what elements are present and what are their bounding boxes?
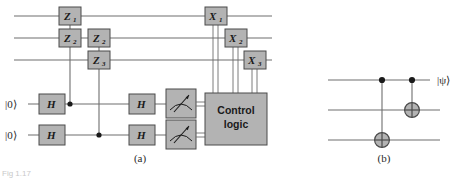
x-gate-3-letter: X bbox=[247, 54, 256, 66]
panel-b-caption: (b) bbox=[378, 152, 391, 165]
cnot-q1-to-q3[interactable] bbox=[375, 77, 390, 148]
z-gate-4-subscript: 3 bbox=[101, 60, 106, 68]
x-gate-3-subscript: 3 bbox=[257, 60, 262, 68]
panel-b: |ψ⟩ (b) bbox=[328, 74, 450, 165]
panel-a: Z 1 Z 2 Z 2 Z 3 X bbox=[5, 7, 272, 165]
classical-wires bbox=[196, 102, 205, 137]
x-gate-2[interactable]: X 2 bbox=[225, 29, 247, 47]
z-gate-2-letter: Z bbox=[63, 32, 71, 44]
bleed-caption-fragment: Fig 1.17 bbox=[2, 169, 31, 178]
x-gate-2-subscript: 2 bbox=[238, 38, 243, 46]
input-ket-2: |0⟩ bbox=[5, 129, 17, 141]
x-gate-1-letter: X bbox=[208, 10, 217, 22]
z-gate-1[interactable]: Z 1 bbox=[59, 7, 81, 25]
cnot-q1-to-q2[interactable] bbox=[405, 77, 420, 118]
cnot-1-control-dot[interactable] bbox=[379, 77, 385, 83]
z-gate-3-letter: Z bbox=[92, 32, 100, 44]
z-gate-1-letter: Z bbox=[63, 10, 71, 22]
quantum-circuit-figure: Z 1 Z 2 Z 2 Z 3 X bbox=[0, 0, 472, 178]
measurement-meter-2[interactable] bbox=[166, 120, 196, 149]
h-gate-q5-left-label: H bbox=[46, 129, 56, 141]
control-logic-block[interactable]: Control logic bbox=[205, 93, 267, 145]
z-gate-2[interactable]: Z 2 bbox=[59, 29, 81, 47]
panel-b-wires bbox=[328, 80, 440, 140]
z-gate-3-subscript: 2 bbox=[101, 38, 106, 46]
z-gate-2-subscript: 2 bbox=[72, 38, 77, 46]
control-dot-ancilla-2[interactable] bbox=[96, 132, 101, 137]
x-gate-2-letter: X bbox=[228, 32, 237, 44]
h-gate-q4-left[interactable]: H bbox=[39, 94, 65, 114]
h-gate-q4-right-label: H bbox=[136, 98, 146, 110]
h-gate-q5-right-label: H bbox=[136, 129, 146, 141]
circuit-canvas: Z 1 Z 2 Z 2 Z 3 X bbox=[0, 0, 472, 178]
z-gate-1-subscript: 1 bbox=[73, 16, 77, 24]
input-ket-1: |0⟩ bbox=[5, 98, 17, 110]
h-gate-q5-right[interactable]: H bbox=[129, 125, 155, 145]
x-gate-1-subscript: 1 bbox=[219, 16, 223, 24]
control-logic-line-1: Control bbox=[217, 104, 254, 116]
x-gate-1[interactable]: X 1 bbox=[205, 7, 227, 25]
h-gate-q4-left-label: H bbox=[46, 98, 56, 110]
z-gate-4[interactable]: Z 3 bbox=[88, 51, 110, 69]
panel-b-output-ket: |ψ⟩ bbox=[437, 74, 450, 86]
control-dot-ancilla-1[interactable] bbox=[67, 101, 72, 106]
panel-a-caption: (a) bbox=[134, 152, 147, 165]
x-gate-3[interactable]: X 3 bbox=[244, 51, 266, 69]
h-gate-q5-left[interactable]: H bbox=[39, 125, 65, 145]
cnot-2-control-dot[interactable] bbox=[409, 77, 415, 83]
h-gate-q4-right[interactable]: H bbox=[129, 94, 155, 114]
z-gate-4-letter: Z bbox=[92, 54, 100, 66]
control-logic-line-2: logic bbox=[224, 118, 249, 130]
z-gate-3[interactable]: Z 2 bbox=[88, 29, 110, 47]
measurement-meter-1[interactable] bbox=[166, 89, 196, 118]
